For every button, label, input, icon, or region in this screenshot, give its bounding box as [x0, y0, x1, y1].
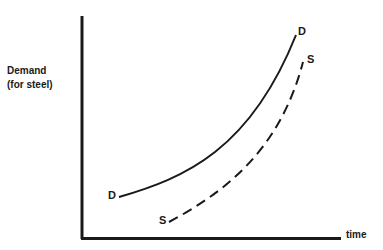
chart-plot — [0, 0, 383, 250]
supply-curve — [169, 62, 303, 222]
supply-end-label: S — [307, 53, 314, 65]
demand-start-label: D — [108, 189, 116, 201]
x-axis-label: time — [346, 229, 367, 240]
demand-end-label: D — [298, 25, 306, 37]
demand-curve — [119, 35, 296, 197]
supply-start-label: S — [159, 214, 166, 226]
